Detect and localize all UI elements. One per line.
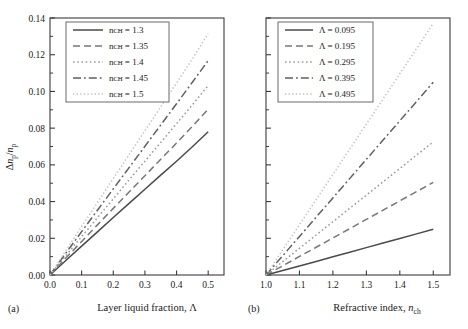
x-tick-label: 1.3 [360, 280, 372, 290]
series-line [266, 142, 433, 275]
plot-a-svg: 0.00.10.20.30.40.50.000.020.040.060.080.… [0, 0, 234, 329]
x-tick-label: 0.3 [139, 280, 151, 290]
panel-a-xlabel: Layer liquid fraction, Λ [52, 302, 242, 313]
legend-label: nᴄʜ = 1.5 [109, 89, 144, 99]
x-tick-label: 1.2 [327, 280, 339, 290]
legend-label: nᴄʜ = 1.35 [109, 41, 148, 51]
x-tick-label: 1.1 [294, 280, 306, 290]
legend-label: nᴄʜ = 1.3 [109, 25, 144, 35]
series-line [50, 132, 208, 275]
panel-a-ylabel: Δnp/np [4, 122, 18, 192]
y-tick-label: 0.04 [28, 197, 45, 207]
legend-label: nᴄʜ = 1.4 [109, 57, 144, 67]
panel-a: 0.00.10.20.30.40.50.000.020.040.060.080.… [0, 0, 234, 329]
series-line [50, 86, 208, 275]
x-tick-label: 0.1 [76, 280, 88, 290]
panel-b: 1.01.11.21.31.41.5Λ = 0.095Λ = 0.195Λ = … [234, 0, 468, 329]
series-line [266, 182, 433, 275]
panel-b-tag: (b) [248, 303, 260, 314]
y-tick-label: 0.08 [28, 124, 45, 134]
x-tick-label: 0.4 [171, 280, 183, 290]
x-tick-label: 0.5 [202, 280, 214, 290]
series-line [266, 82, 433, 275]
legend-label: Λ = 0.295 [319, 57, 356, 67]
x-tick-label: 1.4 [394, 280, 406, 290]
x-tick-label: 0.0 [44, 280, 56, 290]
plot-b-svg: 1.01.11.21.31.41.5Λ = 0.095Λ = 0.195Λ = … [234, 0, 468, 329]
x-tick-label: 1.0 [260, 280, 272, 290]
legend-label: Λ = 0.195 [319, 41, 356, 51]
y-tick-label: 0.02 [28, 234, 45, 244]
figure-container: 0.00.10.20.30.40.50.000.020.040.060.080.… [0, 0, 468, 329]
y-tick-label: 0.00 [28, 271, 45, 281]
series-line [266, 229, 433, 275]
legend-label: Λ = 0.395 [319, 73, 356, 83]
y-tick-label: 0.06 [28, 160, 45, 170]
panel-a-tag: (a) [8, 303, 19, 314]
x-tick-label: 0.2 [107, 280, 119, 290]
series-line [50, 109, 208, 275]
legend-label: nᴄʜ = 1.45 [109, 73, 148, 83]
x-tick-label: 1.5 [427, 280, 439, 290]
legend-label: Λ = 0.095 [319, 25, 356, 35]
panel-b-xlabel: Refractive index, nch [286, 302, 468, 316]
legend-label: Λ = 0.495 [319, 89, 356, 99]
y-tick-label: 0.12 [28, 50, 45, 60]
y-tick-label: 0.14 [28, 14, 45, 24]
y-tick-label: 0.10 [28, 87, 45, 97]
